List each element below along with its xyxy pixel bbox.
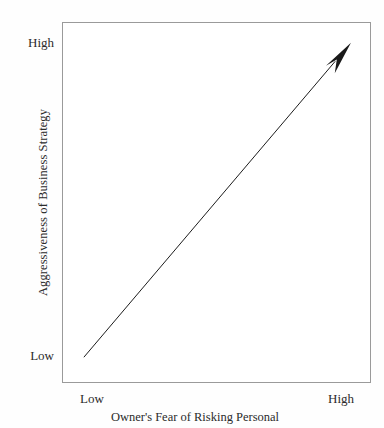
x-axis-tick-label-high: High xyxy=(311,392,371,406)
trend-arrow-svg xyxy=(63,23,370,382)
y-axis-tick-label-low: Low xyxy=(10,349,54,363)
x-axis-tick-label-low: Low xyxy=(62,392,122,406)
trend-line xyxy=(84,61,335,357)
trend-arrowhead xyxy=(326,43,351,74)
plot-area xyxy=(62,22,371,383)
x-axis-title: Owner's Fear of Risking Personal xyxy=(62,409,328,425)
y-axis-title: Aggressiveness of Business Strategy xyxy=(32,22,54,383)
y-axis-tick-label-high: High xyxy=(10,36,54,50)
chart-figure: Aggressiveness of Business Strategy High… xyxy=(0,0,384,428)
